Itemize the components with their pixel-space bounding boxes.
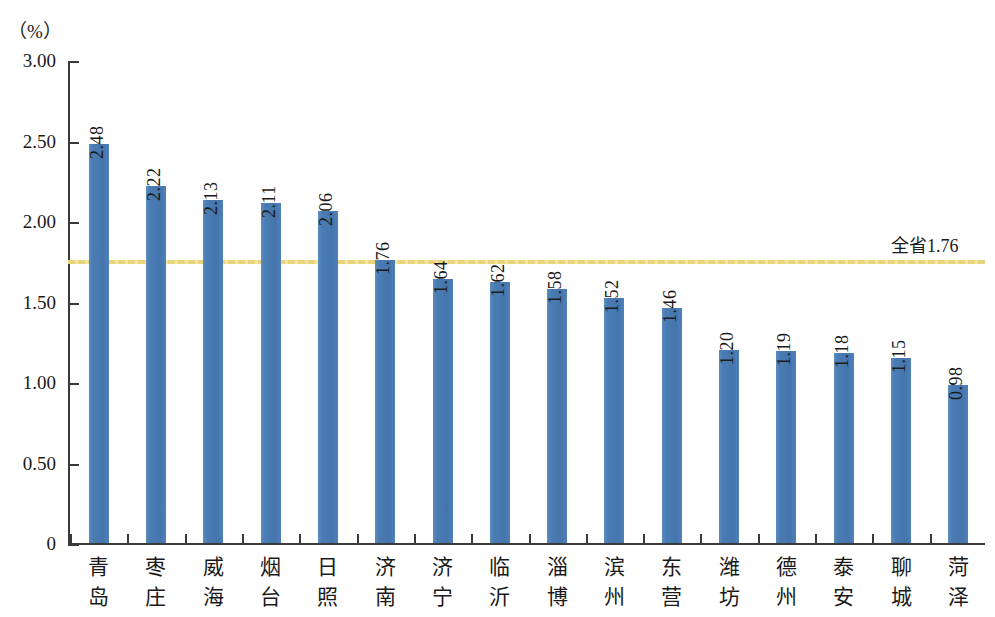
y-axis-tick-label: 2.50 [0,131,56,153]
x-axis-category-label: 东营 [650,552,694,612]
y-axis-tick-label: 2.00 [0,211,56,233]
bar-value-label: 0.98 [946,367,967,401]
x-axis-tick-mark [930,534,932,545]
x-axis-tick-mark [529,534,531,545]
x-axis-category-label: 枣庄 [134,552,178,612]
category-label-char: 沂 [478,582,522,612]
x-axis-tick-mark [758,534,760,545]
y-axis-tick-mark [68,142,79,144]
bar-chart: （%） 3.002.502.001.501.000.500 2.482.222.… [0,0,995,617]
bar [261,203,281,543]
bar [547,289,567,543]
x-axis-tick-mark [70,534,72,545]
bar-value-label: 1.62 [488,264,509,298]
bar-value-label: 1.18 [832,335,853,369]
bar-value-label: 2.06 [316,193,337,227]
bar [490,282,510,543]
x-axis-category-label: 潍坊 [707,552,751,612]
bar-value-label: 1.64 [431,260,452,294]
x-axis-tick-mark [357,534,359,545]
x-axis-tick-mark [643,534,645,545]
x-axis-category-label: 烟台 [249,552,293,612]
x-axis-category-label: 临沂 [478,552,522,612]
x-axis-tick-mark [471,534,473,545]
bar-value-label: 2.22 [144,167,165,201]
category-label-char: 济 [363,552,407,582]
x-axis-tick-mark [700,534,702,545]
x-axis-category-label: 淄博 [535,552,579,612]
category-label-char: 济 [421,552,465,582]
bar-value-label: 1.76 [373,241,394,275]
x-axis-line [68,543,985,545]
x-axis-category-label: 菏泽 [936,552,980,612]
x-axis-tick-mark [872,534,874,545]
bar-value-label: 2.13 [201,182,222,216]
bar-value-label: 1.15 [889,339,910,373]
category-label-char: 岛 [77,582,121,612]
category-label-char: 烟 [249,552,293,582]
category-label-char: 州 [764,582,808,612]
bar [203,200,223,543]
x-axis-category-label: 济南 [363,552,407,612]
bar [948,385,968,543]
category-label-char: 菏 [936,552,980,582]
x-axis-category-label: 德州 [764,552,808,612]
bar [834,353,854,543]
category-label-char: 安 [822,582,866,612]
x-axis-category-label: 滨州 [592,552,636,612]
x-axis-category-label: 日照 [306,552,350,612]
category-label-char: 城 [879,582,923,612]
category-label-char: 州 [592,582,636,612]
bar-value-label: 2.48 [87,125,108,159]
y-axis-tick-mark [68,222,79,224]
bar [318,211,338,543]
bar-value-label: 1.20 [717,331,738,365]
category-label-char: 照 [306,582,350,612]
x-axis-tick-mark [414,534,416,545]
x-axis-tick-mark [815,534,817,545]
y-axis-unit-label: （%） [8,16,62,43]
x-axis-category-label: 聊城 [879,552,923,612]
bar [433,279,453,543]
x-axis-category-label: 泰安 [822,552,866,612]
bar-value-label: 1.58 [545,270,566,304]
bar-value-label: 1.19 [774,333,795,367]
bar-value-label: 1.46 [660,289,681,323]
category-label-char: 南 [363,582,407,612]
y-axis-tick-mark [68,303,79,305]
category-label-char: 庄 [134,582,178,612]
plot-area: 3.002.502.001.501.000.500 2.482.222.132.… [68,62,985,545]
x-axis-category-label: 青岛 [77,552,121,612]
bar [891,358,911,543]
category-label-char: 泰 [822,552,866,582]
y-axis-tick-label: 0.50 [0,453,56,475]
x-axis-tick-mark [299,534,301,545]
y-axis-tick-label: 1.00 [0,372,56,394]
y-axis-tick-mark [68,61,79,63]
category-label-char: 博 [535,582,579,612]
category-label-char: 坊 [707,582,751,612]
y-axis-tick-label: 1.50 [0,292,56,314]
y-axis-tick-mark [68,464,79,466]
category-label-char: 滨 [592,552,636,582]
bar [89,144,109,543]
y-axis-tick-mark [68,383,79,385]
reference-line-label: 全省1.76 [891,231,959,257]
category-label-char: 营 [650,582,694,612]
category-label-char: 海 [191,582,235,612]
bar [146,186,166,543]
category-label-char: 泽 [936,582,980,612]
y-axis-tick-label: 0 [0,533,56,555]
bar [719,350,739,543]
category-label-char: 淄 [535,552,579,582]
bar [662,308,682,543]
category-label-char: 潍 [707,552,751,582]
bar-value-label: 1.52 [602,280,623,314]
category-label-char: 德 [764,552,808,582]
category-label-char: 枣 [134,552,178,582]
category-label-char: 青 [77,552,121,582]
category-label-char: 东 [650,552,694,582]
x-axis-tick-mark [127,534,129,545]
category-label-char: 台 [249,582,293,612]
x-axis-tick-mark [185,534,187,545]
